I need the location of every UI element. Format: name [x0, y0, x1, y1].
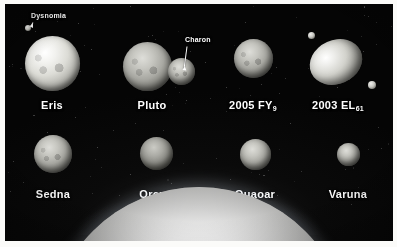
body-2005-fy9 — [234, 39, 273, 78]
star-dot — [130, 6, 131, 7]
star-dot — [234, 45, 235, 46]
star-dot — [135, 123, 136, 124]
body-pluto — [123, 42, 172, 91]
star-dot — [12, 66, 13, 67]
star-dot — [90, 176, 91, 177]
body-sedna — [34, 135, 72, 173]
star-dot — [364, 15, 365, 16]
star-dot — [13, 161, 14, 162]
label-2003-el61: 2003 EL61 — [312, 99, 364, 111]
star-dot — [166, 94, 167, 95]
star-dot — [178, 31, 179, 32]
star-dot — [175, 87, 176, 88]
star-dot — [345, 169, 346, 170]
star-dot — [276, 67, 277, 68]
star-dot — [35, 31, 36, 32]
star-dot — [92, 193, 93, 194]
star-dot — [190, 51, 191, 52]
star-dot — [57, 21, 58, 22]
star-dot — [251, 172, 252, 173]
star-dot — [148, 36, 149, 37]
star-dot — [23, 182, 24, 183]
star-dot — [95, 159, 96, 160]
star-dot — [376, 22, 377, 23]
star-dot — [186, 100, 187, 101]
star-dot — [279, 149, 280, 150]
space-background: DysnomiaCharon ErisPluto2005 FY92003 EL6… — [5, 4, 393, 241]
star-dot — [85, 107, 86, 108]
star-dot — [33, 115, 35, 117]
callout-dysnomia: Dysnomia — [31, 12, 66, 19]
callout-charon: Charon — [185, 36, 211, 43]
star-dot — [80, 71, 81, 72]
body-orcus — [140, 137, 173, 170]
star-dot — [230, 179, 231, 180]
star-dot — [388, 143, 390, 145]
body-quaoar — [240, 139, 271, 170]
star-dot — [368, 149, 369, 150]
star-dot — [185, 103, 186, 104]
body-eris — [25, 36, 80, 91]
star-dot — [239, 88, 240, 89]
star-dot — [9, 66, 10, 67]
star-dot — [94, 24, 95, 25]
star-dot — [130, 174, 131, 175]
star-dot — [47, 132, 48, 133]
moon-namaka — [308, 32, 315, 39]
star-dot — [290, 123, 291, 124]
figure-root: DysnomiaCharon ErisPluto2005 FY92003 EL6… — [0, 0, 397, 247]
star-dot — [259, 174, 260, 175]
star-dot — [163, 130, 164, 131]
leader-line-dysnomia — [31, 22, 34, 26]
star-dot — [376, 44, 377, 45]
star-dot — [119, 195, 120, 196]
star-dot — [93, 8, 94, 9]
star-dot — [261, 84, 262, 85]
star-dot — [294, 181, 295, 182]
star-dot — [167, 179, 169, 181]
star-dot — [268, 170, 269, 171]
label-varuna: Varuna — [329, 188, 368, 200]
star-dot — [99, 74, 100, 75]
body-varuna — [337, 143, 360, 166]
star-dot — [364, 6, 366, 8]
star-dot — [347, 30, 348, 31]
star-dot — [353, 167, 355, 169]
star-dot — [361, 36, 362, 37]
star-dot — [101, 167, 102, 168]
star-dot — [226, 111, 227, 112]
star-dot — [113, 130, 114, 131]
star-dot — [378, 127, 379, 128]
star-dot — [279, 93, 280, 94]
star-dot — [8, 172, 9, 173]
star-dot — [363, 51, 364, 52]
star-dot — [20, 68, 22, 70]
star-dot — [301, 171, 302, 172]
star-dot — [97, 147, 98, 148]
star-dot — [391, 26, 392, 27]
star-dot — [226, 87, 227, 88]
moon-charon — [168, 58, 195, 85]
label-sedna: Sedna — [36, 188, 71, 200]
star-dot — [216, 158, 217, 159]
star-dot — [368, 16, 369, 17]
label-pluto: Pluto — [138, 99, 167, 111]
star-dot — [271, 73, 272, 74]
star-dot — [351, 204, 352, 205]
star-dot — [337, 87, 338, 88]
star-dot — [245, 22, 246, 23]
star-dot — [263, 175, 265, 177]
star-dot — [253, 6, 254, 7]
star-dot — [205, 62, 207, 64]
star-dot — [296, 17, 297, 18]
star-dot — [84, 45, 85, 46]
star-dot — [210, 98, 211, 99]
star-dot — [78, 23, 79, 24]
star-dot — [163, 31, 164, 32]
star-dot — [172, 105, 173, 106]
star-dot — [12, 64, 13, 65]
star-dot — [75, 117, 76, 118]
moon-hi-iaka — [368, 81, 376, 89]
star-dot — [179, 92, 180, 93]
star-dot — [10, 191, 11, 192]
